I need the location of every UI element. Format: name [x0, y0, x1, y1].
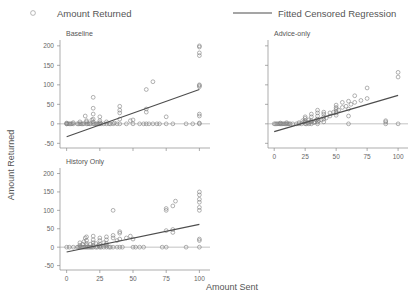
- data-point: [113, 121, 117, 125]
- y-tick-label: 200: [43, 170, 54, 177]
- x-tick-label: 75: [363, 153, 371, 160]
- panel-history-only: History Only-500501001502000255075100: [43, 158, 210, 282]
- data-point: [334, 103, 338, 107]
- circle-outline-icon: [31, 11, 36, 16]
- x-tick-label: 0: [65, 275, 69, 282]
- data-point: [111, 233, 115, 237]
- data-point: [340, 106, 344, 110]
- y-tick-label: 100: [43, 207, 54, 214]
- legend-label-fitted-regression: Fitted Censored Regression: [278, 8, 396, 19]
- y-axis-label: Amount Returned: [6, 130, 16, 201]
- data-point: [91, 95, 95, 99]
- data-point: [347, 114, 351, 118]
- legend-label-amount-returned: Amount Returned: [57, 8, 131, 19]
- data-point: [349, 102, 353, 106]
- data-point: [131, 118, 135, 122]
- y-tick-label: 150: [43, 188, 54, 195]
- x-tick-label: 75: [163, 275, 171, 282]
- y-tick-label: 50: [47, 101, 55, 108]
- x-tick-label: 0: [272, 153, 276, 160]
- y-tick-label: 0: [50, 120, 54, 127]
- data-point: [118, 108, 122, 112]
- data-point: [340, 100, 344, 104]
- data-point: [91, 106, 95, 110]
- panel-advice-only: Advice-only0255075100: [265, 30, 408, 160]
- data-point: [365, 86, 369, 90]
- data-point: [396, 70, 400, 74]
- y-tick-label: 0: [50, 244, 54, 251]
- data-point: [164, 115, 168, 119]
- y-tick-label: 150: [43, 62, 54, 69]
- data-point: [365, 97, 369, 101]
- data-point: [151, 80, 155, 84]
- y-tick-label: 100: [43, 81, 54, 88]
- fitted-regression-line: [67, 90, 200, 137]
- data-point: [83, 114, 87, 118]
- y-tick-label: 50: [47, 225, 55, 232]
- y-tick-label: -50: [45, 262, 55, 269]
- fitted-regression-line: [67, 224, 200, 252]
- panel-title: Baseline: [66, 30, 93, 37]
- data-point: [98, 115, 102, 119]
- figure-root: Amount ReturnedFitted Censored Regressio…: [0, 0, 416, 303]
- data-point: [353, 94, 357, 98]
- x-tick-label: 50: [333, 153, 341, 160]
- data-point: [316, 108, 320, 112]
- data-point: [94, 242, 98, 246]
- data-point: [353, 100, 357, 104]
- x-axis-label: Amount Sent: [206, 282, 259, 292]
- data-point: [396, 75, 400, 79]
- x-tick-label: 50: [129, 275, 137, 282]
- x-tick-label: 25: [96, 275, 104, 282]
- data-point: [91, 117, 95, 121]
- data-point: [98, 236, 102, 240]
- panels-container: Baseline-50050100150200Advice-only025507…: [43, 30, 408, 282]
- panel-title: Advice-only: [274, 30, 311, 38]
- data-point: [91, 112, 95, 116]
- panel-title: History Only: [66, 158, 105, 166]
- data-point: [309, 112, 313, 116]
- data-point: [111, 208, 115, 212]
- data-point: [171, 204, 175, 208]
- y-tick-label: -50: [45, 140, 55, 147]
- x-tick-label: 100: [194, 275, 205, 282]
- data-point: [118, 104, 122, 108]
- data-point: [144, 88, 148, 92]
- panel-baseline: Baseline-50050100150200: [43, 30, 210, 151]
- x-tick-label: 100: [393, 153, 404, 160]
- fitted-regression-line: [274, 95, 398, 131]
- x-tick-label: 25: [302, 153, 310, 160]
- y-tick-label: 200: [43, 42, 54, 49]
- data-point: [174, 199, 178, 203]
- legend: Amount ReturnedFitted Censored Regressio…: [31, 8, 397, 19]
- data-point: [197, 51, 201, 55]
- data-point: [91, 234, 95, 238]
- data-point: [359, 99, 363, 103]
- data-point: [128, 119, 132, 123]
